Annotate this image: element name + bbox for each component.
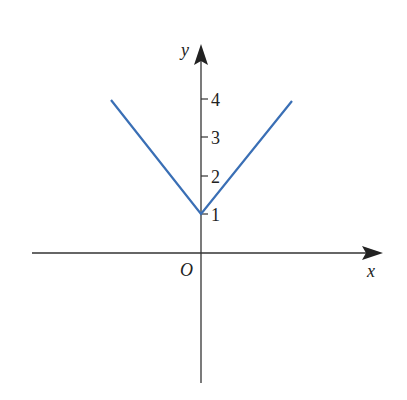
y-axis-label: y bbox=[179, 40, 189, 60]
y-tick-label-2: 2 bbox=[211, 167, 220, 187]
origin-label: O bbox=[180, 260, 193, 280]
y-tick-label-3: 3 bbox=[211, 128, 220, 148]
y-tick-label-1: 1 bbox=[211, 205, 220, 225]
x-axis-label: x bbox=[366, 261, 375, 281]
graph: 4 3 2 1 y x O bbox=[0, 0, 407, 400]
y-tick-label-4: 4 bbox=[211, 90, 220, 110]
